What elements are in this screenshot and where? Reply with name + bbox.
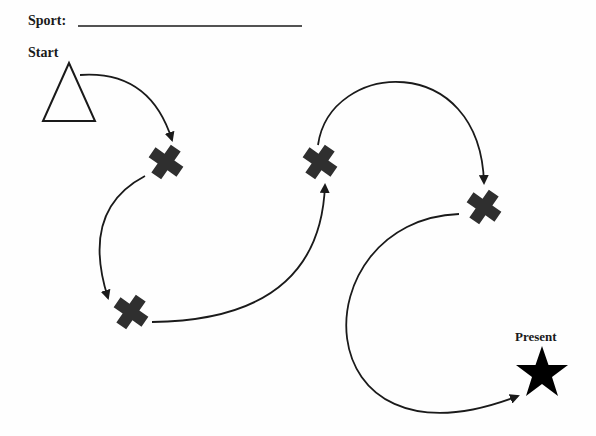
cross-2-icon <box>107 288 154 335</box>
arrow-cross-1-to-cross-2 <box>100 176 145 298</box>
arrow-cross-3-to-cross-4 <box>318 82 484 183</box>
start-triangle-icon <box>43 63 95 121</box>
arrow-start-to-cross-1 <box>80 75 172 140</box>
present-label: Present <box>515 329 557 344</box>
sport-timeline-worksheet: Sport: Start Present <box>0 0 596 436</box>
cross-1-icon <box>142 138 189 185</box>
diagram-svg: Sport: Start Present <box>0 0 596 436</box>
start-label: Start <box>28 45 59 60</box>
present-star-icon <box>516 346 568 396</box>
arrow-cross-2-to-cross-3 <box>152 185 325 322</box>
arrow-cross-4-to-present <box>346 214 518 413</box>
sport-label: Sport: <box>28 13 66 28</box>
cross-4-icon <box>460 183 507 230</box>
cross-3-icon <box>296 138 343 185</box>
